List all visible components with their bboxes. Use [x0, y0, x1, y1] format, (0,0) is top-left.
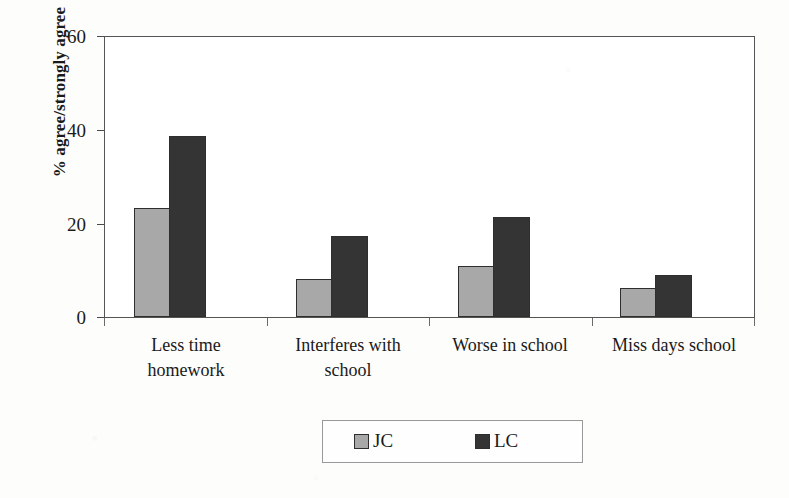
legend: JC LC — [322, 420, 583, 463]
y-axis-tick-mark-40 — [97, 130, 104, 131]
x-axis-category-label-less-time-homework: Less time homework — [105, 333, 267, 383]
y-axis-tick-mark-60 — [97, 36, 104, 37]
bar-less-time-homework-lc — [169, 136, 206, 317]
y-axis-tick-label-60: 60 — [44, 27, 86, 46]
x-axis-tick-mark-4 — [754, 318, 755, 326]
bar-miss-days-school-jc — [620, 288, 656, 317]
x-axis-tick-mark-3 — [592, 318, 593, 326]
bar-worse-in-school-jc — [458, 266, 494, 317]
bar-miss-days-school-lc — [655, 275, 692, 317]
y-axis-tick-mark-20 — [97, 224, 104, 225]
legend-label-jc: JC — [373, 430, 393, 452]
x-axis-category-label-miss-days-school: Miss days school — [592, 333, 756, 358]
legend-entry-jc: JC — [354, 430, 393, 452]
y-axis-tick-label-0: 0 — [44, 308, 86, 327]
plot-area — [104, 36, 755, 318]
legend-label-lc: LC — [494, 430, 518, 452]
bar-interferes-with-school-lc — [331, 236, 368, 317]
legend-entry-lc: LC — [475, 430, 518, 452]
x-axis-tick-mark-0 — [104, 318, 105, 326]
x-axis-tick-mark-1 — [267, 318, 268, 326]
bar-chart: % agree/strongly agree 60 40 20 0 Less t… — [0, 0, 789, 498]
legend-swatch-lc-icon — [475, 434, 490, 449]
x-axis-category-label-worse-in-school: Worse in school — [429, 333, 591, 358]
bar-worse-in-school-lc — [493, 217, 530, 317]
bar-less-time-homework-jc — [134, 208, 170, 317]
y-axis-tick-label-20: 20 — [44, 215, 86, 234]
bar-interferes-with-school-jc — [296, 279, 332, 317]
x-axis-category-label-interferes-with-school: Interferes with school — [267, 333, 429, 383]
legend-swatch-jc-icon — [354, 434, 369, 449]
y-axis-tick-mark-0 — [97, 317, 104, 318]
y-axis-tick-label-40: 40 — [44, 121, 86, 140]
x-axis-tick-mark-2 — [429, 318, 430, 326]
plot-inner — [105, 37, 754, 317]
